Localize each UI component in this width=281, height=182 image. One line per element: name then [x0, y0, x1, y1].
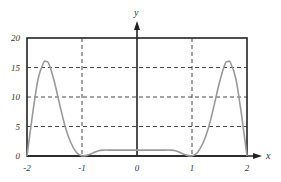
y-tick-label: 15: [11, 63, 21, 73]
y-tick-labels: 05101520: [11, 33, 21, 161]
x-tick-label: -1: [78, 163, 86, 173]
y-tick-label: 5: [16, 122, 21, 132]
x-tick-label: 2: [245, 163, 250, 173]
y-tick-label: 0: [16, 151, 21, 161]
x-tick-label: -2: [23, 163, 31, 173]
x-axis-label: x: [265, 150, 271, 161]
y-axis-label: y: [133, 7, 139, 18]
y-tick-label: 20: [11, 33, 21, 43]
y-tick-label: 10: [11, 92, 21, 102]
x-axis-arrow-icon: [253, 153, 262, 159]
chart: x y 05101520 -2-1012: [0, 0, 281, 182]
y-axis-arrow-icon: [134, 21, 140, 30]
x-tick-label: 0: [135, 163, 140, 173]
x-tick-labels: -2-1012: [23, 163, 250, 173]
x-tick-label: 1: [190, 163, 195, 173]
